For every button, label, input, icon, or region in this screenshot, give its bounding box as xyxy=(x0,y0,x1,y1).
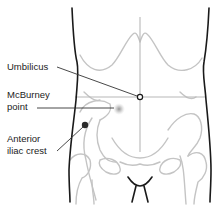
pelvic-inlet-right xyxy=(160,158,181,174)
label-iliac-line2: iliac crest xyxy=(7,145,47,156)
left-femur-head xyxy=(70,154,91,204)
label-iliac-line1: Anterior xyxy=(7,133,47,144)
umbilicus-marker xyxy=(137,94,142,99)
label-mcburney-line1: McBurney xyxy=(7,89,50,100)
sacrum xyxy=(120,162,160,165)
left-lower-rib xyxy=(84,92,100,101)
skeleton xyxy=(70,33,207,204)
label-mcburney-line2: point xyxy=(7,101,50,112)
right-body-contour xyxy=(203,8,211,202)
left-inner-thigh xyxy=(132,186,136,202)
label-umbilicus-text: Umbilicus xyxy=(7,61,48,72)
label-umbilicus: Umbilicus xyxy=(7,61,48,72)
reference-lines xyxy=(75,17,206,152)
left-iliac-wing xyxy=(80,101,111,120)
rib-cage-margin xyxy=(80,33,202,70)
mcburney-point-marker xyxy=(113,103,125,115)
right-iliac-wing xyxy=(168,114,202,156)
label-mcburney-point: McBurney point xyxy=(7,89,50,112)
right-femur-head xyxy=(188,153,207,204)
umbilicus-leader xyxy=(57,67,137,96)
label-anterior-iliac-crest: Anterior iliac crest xyxy=(7,133,47,156)
right-inner-thigh xyxy=(144,186,148,202)
groin-curve xyxy=(128,177,152,186)
left-body-contour xyxy=(69,8,78,202)
